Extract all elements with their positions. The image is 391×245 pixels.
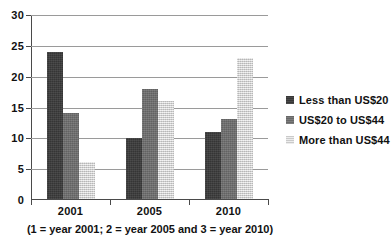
bar-2010-series-1: [221, 119, 237, 199]
legend-item-0: Less than US$20: [286, 91, 391, 108]
x-group-label-2005: 2005: [137, 205, 162, 217]
legend-item-2: More than US$44: [286, 131, 391, 148]
bar-2010-series-2: [237, 58, 253, 199]
legend-swatch-icon-series-1: [286, 116, 294, 124]
legend-label-2: More than US$44: [299, 134, 390, 146]
legend-item-1: US$20 to US$44: [286, 111, 391, 128]
chart-legend: Less than US$20 US$20 to US$44 More than…: [286, 91, 391, 151]
x-axis-line: [31, 199, 269, 200]
x-axis-caption: (1 = year 2001; 2 = year 2005 and 3 = ye…: [0, 223, 300, 235]
legend-label-0: Less than US$20: [299, 94, 389, 106]
y-axis-labels: 30 25 20 15 10 5 0: [0, 15, 24, 200]
y-tick-label-5: 5: [18, 163, 24, 175]
bar-2005-series-1: [142, 89, 158, 199]
legend-label-1: US$20 to US$44: [299, 114, 384, 126]
bar-chart: 30 25 20 15 10 5 0 2001 2005 2010 (1 = y…: [0, 0, 391, 245]
x-group-label-2001: 2001: [58, 205, 83, 217]
bar-2005-series-0: [126, 138, 142, 199]
x-group-label-2010: 2010: [216, 205, 241, 217]
x-axis-sep-right: [268, 199, 269, 205]
bar-2001-series-1: [63, 113, 79, 199]
legend-swatch-icon-series-0: [286, 96, 294, 104]
x-axis-sep-left: [31, 199, 32, 205]
x-axis-sep-1: [110, 199, 111, 205]
y-tick-label-15: 15: [11, 102, 24, 114]
y-tick-label-0: 0: [18, 194, 24, 206]
y-tick-label-10: 10: [11, 132, 24, 144]
bar-2010-series-0: [205, 132, 221, 199]
y-tick-label-25: 25: [11, 40, 24, 52]
bar-2005-series-2: [158, 101, 174, 199]
y-tick-label-20: 20: [11, 71, 24, 83]
bar-2001-series-0: [47, 52, 63, 199]
bars-layer: [31, 15, 268, 199]
legend-swatch-icon-series-2: [286, 136, 294, 144]
bar-2001-series-2: [79, 162, 95, 199]
x-axis-sep-2: [189, 199, 190, 205]
plot-area: [31, 15, 268, 199]
y-tick-label-30: 30: [11, 9, 24, 21]
